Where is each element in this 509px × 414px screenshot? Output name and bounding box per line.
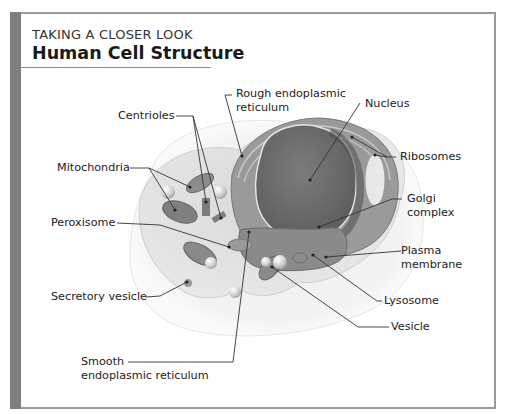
label-smooth-er-line2: endoplasmic reticulum	[81, 369, 209, 383]
label-secretory-vesicle: Secretory vesicle	[51, 290, 147, 304]
label-mitochondria: Mitochondria	[57, 161, 130, 175]
vesicle-shape	[229, 286, 241, 298]
label-plasma-membrane-line1: Plasma	[401, 244, 462, 258]
vesicle-shape	[161, 185, 175, 199]
label-rough-er: Rough endoplasmic reticulum	[236, 87, 346, 115]
label-rough-er-line2: reticulum	[236, 101, 346, 115]
label-golgi-line1: Golgi	[407, 192, 454, 206]
label-plasma-membrane: Plasma membrane	[401, 244, 462, 272]
lysosome-shape	[293, 253, 307, 263]
label-golgi: Golgi complex	[407, 192, 454, 220]
label-smooth-er: Smooth endoplasmic reticulum	[81, 355, 209, 383]
label-golgi-line2: complex	[407, 206, 454, 220]
label-plasma-membrane-line2: membrane	[401, 258, 462, 272]
label-peroxisome: Peroxisome	[51, 216, 115, 230]
label-nucleus: Nucleus	[365, 97, 410, 111]
golgi-shape	[239, 228, 347, 271]
vesicle-shape	[261, 257, 271, 267]
label-smooth-er-line1: Smooth	[81, 355, 209, 369]
vesicle-shape	[273, 255, 287, 269]
vesicle-shape	[205, 257, 217, 269]
label-vesicle: Vesicle	[391, 320, 430, 334]
label-lysosome: Lysosome	[384, 294, 439, 308]
label-centrioles: Centrioles	[118, 109, 175, 123]
ribosome-vacuole	[365, 154, 385, 206]
label-rough-er-line1: Rough endoplasmic	[236, 87, 346, 101]
peroxisome-shape	[228, 239, 252, 251]
label-ribosomes: Ribosomes	[400, 150, 461, 164]
